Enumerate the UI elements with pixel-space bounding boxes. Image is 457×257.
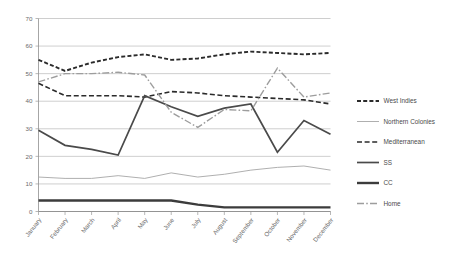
series-line-cc bbox=[39, 200, 331, 207]
y-tick-label: 20 bbox=[26, 153, 33, 160]
y-tick-label: 10 bbox=[26, 180, 33, 187]
x-tick-label: November bbox=[285, 216, 308, 243]
y-tick-label: 60 bbox=[26, 42, 33, 49]
chart-container: 010203040506070 JanuaryFebruaryMarchApri… bbox=[0, 0, 457, 257]
x-tick-label: May bbox=[136, 216, 149, 230]
x-tick-label: October bbox=[262, 216, 281, 238]
series-line-home bbox=[39, 68, 331, 127]
x-tick-label: December bbox=[311, 216, 334, 243]
x-tick-label: September bbox=[231, 216, 255, 244]
x-tick-label: April bbox=[109, 216, 122, 230]
series-line-northern-colonies bbox=[39, 166, 331, 178]
x-tick-label: January bbox=[23, 216, 43, 238]
legend-label-west-indies: West Indies bbox=[384, 97, 417, 104]
chart-legend: West IndiesNorthern ColoniesMediterranea… bbox=[357, 97, 435, 207]
legend-label-cc: CC bbox=[384, 179, 394, 186]
gridlines bbox=[39, 19, 331, 212]
x-tick-label: March bbox=[79, 216, 95, 234]
x-tick-label: June bbox=[161, 216, 175, 231]
y-axis: 010203040506070 bbox=[26, 15, 39, 215]
x-axis: JanuaryFebruaryMarchAprilMayJuneJulyAugu… bbox=[23, 212, 334, 245]
legend-label-ss: SS bbox=[384, 159, 393, 166]
y-tick-label: 70 bbox=[26, 15, 33, 22]
legend-label-northern-colonies: Northern Colonies bbox=[384, 118, 436, 125]
legend-label-mediterranean: Mediterranean bbox=[384, 138, 426, 145]
line-chart: 010203040506070 JanuaryFebruaryMarchApri… bbox=[0, 0, 457, 257]
x-tick-label: August bbox=[211, 216, 229, 236]
y-tick-label: 30 bbox=[26, 125, 33, 132]
series-line-west-indies bbox=[39, 52, 331, 71]
y-tick-label: 40 bbox=[26, 97, 33, 104]
y-tick-label: 50 bbox=[26, 70, 33, 77]
y-tick-label: 0 bbox=[29, 208, 33, 215]
x-tick-label: July bbox=[189, 216, 202, 230]
series-line-ss bbox=[39, 96, 331, 155]
x-tick-label: February bbox=[48, 216, 69, 241]
legend-label-home: Home bbox=[384, 200, 401, 207]
